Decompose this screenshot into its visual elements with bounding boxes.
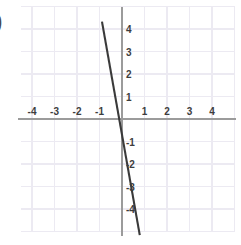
y-tick-label: 2 xyxy=(126,69,132,80)
x-tick-label: -1 xyxy=(95,106,104,117)
y-tick-label: -3 xyxy=(126,181,135,192)
y-tick-label: -2 xyxy=(126,159,135,170)
y-tick-label: 3 xyxy=(126,46,132,57)
x-tick-label: -3 xyxy=(50,106,59,117)
y-tick-label: 4 xyxy=(126,24,132,35)
x-tick-label: 4 xyxy=(209,106,215,117)
x-tick-label: 3 xyxy=(187,106,193,117)
coordinate-plane: -4-3-2-11234 4321-1-2-3-4 xyxy=(0,0,241,245)
x-tick-label: -2 xyxy=(73,106,82,117)
plotted-line xyxy=(0,0,241,245)
x-tick-label: -4 xyxy=(28,106,37,117)
x-tick-label: 2 xyxy=(164,106,170,117)
graph-screenshot: ) -4-3-2-11234 4321-1-2-3-4 xyxy=(0,0,241,245)
y-tick-label: 1 xyxy=(126,91,132,102)
y-tick-label: -4 xyxy=(126,204,135,215)
y-tick-label: -1 xyxy=(126,136,135,147)
x-tick-label: 1 xyxy=(142,106,148,117)
